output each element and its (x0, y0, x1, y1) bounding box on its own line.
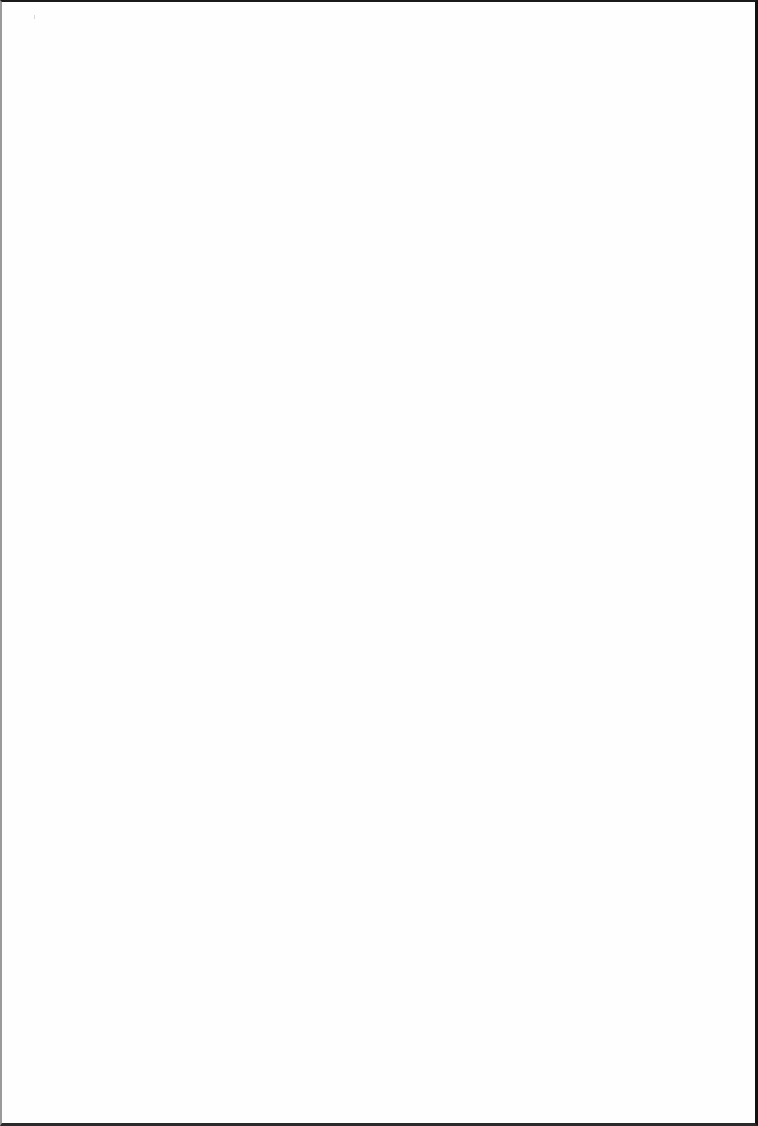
page-frame (0, 0, 758, 1126)
scan-artifact (34, 15, 35, 19)
